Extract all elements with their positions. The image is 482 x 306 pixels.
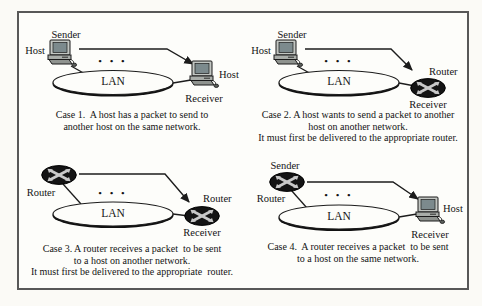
host-label: Host bbox=[219, 69, 239, 80]
case-2-panel: Sender Host • • • LAN Router Receiver Ca… bbox=[245, 13, 471, 153]
host-label: Host bbox=[443, 203, 463, 214]
case-caption-line: Case 2. A host wants to send a packet to… bbox=[243, 109, 473, 121]
receiver-lan-link-line bbox=[399, 214, 417, 217]
case-4-panel: Sender Router • • • LAN Host Receiver Ca… bbox=[245, 152, 471, 292]
case-caption-line: It must first be delivered to the approp… bbox=[243, 132, 473, 144]
receiver-label: Receiver bbox=[177, 93, 231, 104]
host-label: Host bbox=[19, 45, 45, 56]
case-caption-line: Case 3. A router receives a packet to be… bbox=[17, 243, 247, 255]
case-caption-line: to a host on another network. bbox=[17, 255, 247, 267]
receiver-label: Receiver bbox=[403, 229, 457, 240]
ellipsis-dots: • • • bbox=[317, 191, 361, 200]
host-sender-icon bbox=[48, 40, 77, 67]
case-3-panel: Router • • • LAN Router Receiver Case 3.… bbox=[19, 152, 245, 292]
case-caption-line: Case 1. A host has a packet to send to bbox=[17, 109, 247, 121]
lan-label: LAN bbox=[93, 208, 133, 219]
sender-label: Sender bbox=[269, 29, 315, 40]
ellipsis-dots: • • • bbox=[317, 57, 361, 66]
sender-lan-link-line bbox=[291, 190, 307, 208]
case-3-caption: Case 3. A router receives a packet to be… bbox=[17, 243, 247, 278]
router-label: Router bbox=[203, 193, 232, 204]
router-sender-icon bbox=[42, 166, 77, 185]
host-receiver-icon bbox=[416, 197, 445, 224]
case-caption-line: It must first be delivered to the approp… bbox=[17, 266, 247, 278]
case-caption-line: Case 4. A router receives a packet to be… bbox=[243, 241, 473, 253]
case-2-caption: Case 2. A host wants to send a packet to… bbox=[243, 109, 473, 144]
case-caption-line: to a host on the same network. bbox=[243, 253, 473, 265]
router-label: Router bbox=[429, 66, 458, 77]
lan-label: LAN bbox=[319, 211, 359, 222]
lan-label: LAN bbox=[93, 76, 133, 87]
host-receiver-icon bbox=[190, 61, 219, 88]
ellipsis-dots: • • • bbox=[91, 57, 135, 66]
receiver-label: Receiver bbox=[175, 227, 229, 238]
case-caption-line: host on another network. bbox=[243, 121, 473, 133]
sender-label: Sender bbox=[261, 160, 309, 171]
lan-label: LAN bbox=[319, 76, 359, 87]
sender-lan-link-line bbox=[63, 184, 81, 204]
case-1-panel: Sender Host • • • LAN Host Receiver Case… bbox=[19, 13, 245, 153]
router-label: Router bbox=[251, 193, 291, 204]
figure-panel: Sender Host • • • LAN Host Receiver Case… bbox=[17, 11, 469, 290]
case-4-caption: Case 4. A router receives a packet to be… bbox=[243, 241, 473, 264]
router-label: Router bbox=[21, 187, 61, 198]
receiver-lan-link-line bbox=[173, 80, 191, 83]
router-receiver-icon bbox=[411, 79, 446, 98]
case-caption-line: another host on the same network. bbox=[17, 121, 247, 133]
case-1-caption: Case 1. A host has a packet to send to a… bbox=[17, 109, 247, 132]
router-sender-icon bbox=[270, 173, 305, 192]
ellipsis-dots: • • • bbox=[91, 189, 135, 198]
host-sender-icon bbox=[274, 40, 303, 67]
router-receiver-icon bbox=[185, 207, 220, 226]
sender-label: Sender bbox=[43, 29, 89, 40]
host-label: Host bbox=[245, 45, 271, 56]
